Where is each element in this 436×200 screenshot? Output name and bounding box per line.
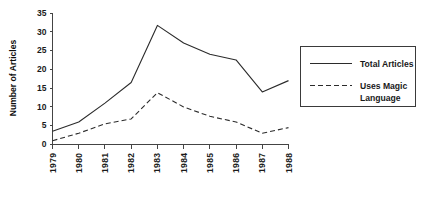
y-axis-group: 05101520253035 [37, 8, 52, 150]
y-tick-label: 35 [37, 8, 47, 18]
y-tick-label: 25 [37, 45, 47, 55]
y-tick-label: 15 [37, 83, 47, 93]
x-tick-label: 1979 [48, 153, 58, 174]
x-tick-label: 1987 [257, 153, 267, 174]
legend-label-uses-magic: Uses Magic [360, 81, 408, 91]
legend-label-total-articles: Total Articles [360, 59, 414, 69]
y-tick-label: 30 [37, 27, 47, 37]
x-axis-tick-labels: 1979198019811982198319841985198619871988 [48, 152, 294, 173]
y-tick-label: 0 [42, 139, 47, 149]
y-tick-label: 20 [37, 64, 47, 74]
y-axis-title: Number of Articles [8, 40, 18, 117]
x-tick-label: 1981 [100, 153, 110, 174]
chart-figure: 05101520253035 1979198019811982198319841… [0, 0, 436, 200]
x-tick-label: 1982 [126, 153, 136, 174]
line-chart: 05101520253035 1979198019811982198319841… [0, 0, 436, 200]
data-series-group [53, 25, 289, 140]
x-tick-label: 1984 [179, 153, 189, 174]
y-tick-label: 5 [42, 120, 47, 130]
legend-label-language: Language [360, 93, 401, 103]
x-tick-label: 1988 [284, 153, 294, 174]
series-line-total-articles [53, 25, 289, 131]
x-tick-label: 1980 [74, 153, 84, 174]
y-tick-label: 10 [37, 102, 47, 112]
y-axis-tick-labels: 05101520253035 [37, 8, 47, 150]
x-tick-label: 1985 [205, 153, 215, 174]
legend: Total Articles Uses Magic Language [301, 47, 416, 107]
series-line-uses-magic-language [53, 93, 289, 141]
x-axis-ticks [53, 145, 289, 149]
x-tick-label: 1983 [152, 153, 162, 174]
x-axis-group: 1979198019811982198319841985198619871988 [48, 145, 294, 174]
x-tick-label: 1986 [231, 152, 241, 173]
